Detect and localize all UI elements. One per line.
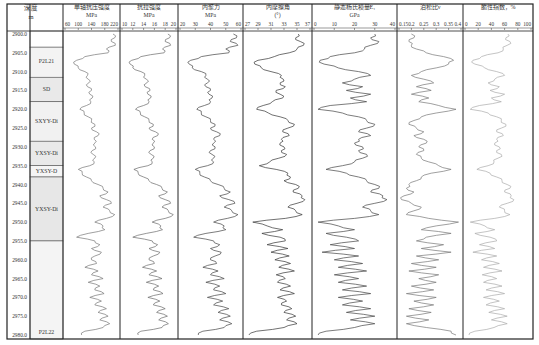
depth-tick-label: 2930.0 — [12, 144, 27, 150]
scale-tick-label: 20 — [171, 21, 177, 27]
track-unit: MPa — [144, 12, 155, 18]
lithology-label: P2L22 — [39, 329, 55, 335]
track-unit: MPa — [205, 12, 216, 18]
lithology-label: YXSY-D — [36, 168, 57, 174]
lithology-column: P2L21SDSXYY-DiYXSY-DiYXSY-DYXSY-DiP2L22 — [30, 31, 63, 339]
geomechanics-log-chart: P2L21SDSXYY-DiYXSY-DiYXSY-DYXSY-DiP2L22 … — [0, 0, 539, 345]
log-curve — [129, 34, 173, 335]
scale-tick-label: 220 — [110, 21, 118, 27]
depth-axis-labels: 2900.02905.02910.02915.02920.02925.02930… — [12, 31, 27, 338]
scale-tick-label: 40 — [390, 21, 396, 27]
scale-tick-label: 180 — [101, 21, 109, 27]
scale-tick-label: 0.35 — [444, 21, 453, 27]
scale-tick-label: 0.15 — [399, 21, 408, 27]
log-curve — [401, 34, 459, 335]
scale-tick-label: 20 — [352, 21, 358, 27]
lithology-label: SD — [43, 86, 50, 92]
depth-tick-label: 2945.0 — [12, 200, 27, 206]
depth-tick-label: 2970.0 — [12, 294, 27, 300]
scale-tick-label: 18 — [163, 21, 169, 27]
log-curve — [249, 34, 305, 335]
scale-tick-label: 16 — [152, 21, 158, 27]
lithology-label: P2L21 — [39, 58, 55, 64]
lithology-unit — [30, 241, 63, 339]
depth-tick-label: 2980.0 — [12, 332, 27, 338]
depth-tick-label: 2975.0 — [12, 313, 27, 319]
depth-tick-label: 2955.0 — [12, 238, 27, 244]
scale-tick-label: 29 — [255, 21, 261, 27]
scale-tick-label: 20 — [180, 21, 186, 27]
lithology-unit — [30, 31, 63, 47]
scale-tick-label: 60 — [502, 21, 508, 27]
depth-tick-label: 2950.0 — [12, 219, 27, 225]
depth-tick-label: 2910.0 — [12, 69, 27, 75]
lithology-label: YXSY-Di — [35, 206, 58, 212]
track-title: 泊松比ν — [420, 3, 441, 11]
track-title: 单轴抗压强度 — [74, 3, 110, 11]
scale-tick-label: 37 — [305, 21, 311, 27]
depth-tick-label: 2915.0 — [12, 87, 27, 93]
depth-column-title: 深度 — [24, 3, 38, 12]
scale-tick-label: 20 — [476, 21, 482, 27]
depth-tick-label: 2905.0 — [12, 50, 27, 56]
lithology-label: SXYY-Di — [35, 118, 58, 124]
scale-tick-label: 12 — [130, 21, 136, 27]
track-unit: (°) — [274, 12, 280, 19]
scale-tick-label: 35 — [294, 21, 300, 27]
track-title: 抗拉强度 — [137, 3, 161, 11]
scale-tick-label: 14 — [141, 21, 147, 27]
depth-tick-label: 2920.0 — [12, 106, 27, 112]
scale-tick-label: 80 — [515, 21, 521, 27]
depth-tick-label: 2925.0 — [12, 125, 27, 131]
scale-tick-label: 100 — [523, 21, 531, 27]
scale-tick-label: 140 — [88, 21, 96, 27]
scale-tick-label: 0 — [314, 21, 317, 27]
scale-tick-label: 50 — [223, 21, 229, 27]
scale-tick-label: 30 — [193, 21, 199, 27]
depth-tick-label: 2940.0 — [12, 182, 27, 188]
scale-tick-label: 60 — [65, 21, 71, 27]
log-curve — [469, 34, 514, 335]
scale-tick-label: 60 — [236, 21, 242, 27]
scale-tick-label: 30 — [372, 21, 378, 27]
track-unit: GPa — [350, 12, 360, 18]
scale-tick-label: 40 — [208, 21, 214, 27]
scale-tick-label: 40 — [489, 21, 495, 27]
scale-tick-label: 0.25 — [419, 21, 428, 27]
track-unit: MPa — [86, 12, 97, 18]
depth-column-unit: m — [28, 13, 33, 20]
scale-tick-label: 0.4 — [455, 21, 462, 27]
track-title: 内聚力 — [202, 3, 220, 11]
scale-tick-label: 27 — [245, 21, 251, 27]
scale-tick-label: 100 — [74, 21, 82, 27]
scale-tick-label: 0.2 — [408, 21, 415, 27]
scale-tick-label: 33 — [281, 21, 287, 27]
log-curve — [188, 34, 238, 335]
depth-tick-label: 2900.0 — [12, 31, 27, 37]
depth-tick-label: 2935.0 — [12, 163, 27, 169]
scale-tick-label: 10 — [332, 21, 338, 27]
depth-tick-label: 2965.0 — [12, 276, 27, 282]
scale-tick-label: 31 — [268, 21, 274, 27]
scale-tick-label: 0 — [465, 21, 468, 27]
track-headers: 深度 m 单轴抗压强度MPa60100140180220抗拉强度MPa10121… — [24, 3, 533, 30]
lithology-label: YXSY-Di — [35, 150, 58, 156]
outer-border — [7, 4, 533, 339]
log-curves — [74, 34, 514, 335]
track-title: 脆性指数，% — [481, 3, 516, 11]
chart-frame — [7, 4, 533, 339]
scale-tick-label: 10 — [122, 21, 128, 27]
depth-tick-label: 2960.0 — [12, 257, 27, 263]
scale-tick-label: 0.3 — [433, 21, 440, 27]
track-title: 内摩擦角 — [266, 3, 290, 11]
log-plot-svg: P2L21SDSXYY-DiYXSY-DiYXSY-DYXSY-DiP2L22 … — [0, 0, 539, 345]
log-curve — [74, 34, 116, 335]
track-title: 静态杨氏模量E₁ — [334, 3, 376, 11]
log-curve — [318, 34, 387, 335]
